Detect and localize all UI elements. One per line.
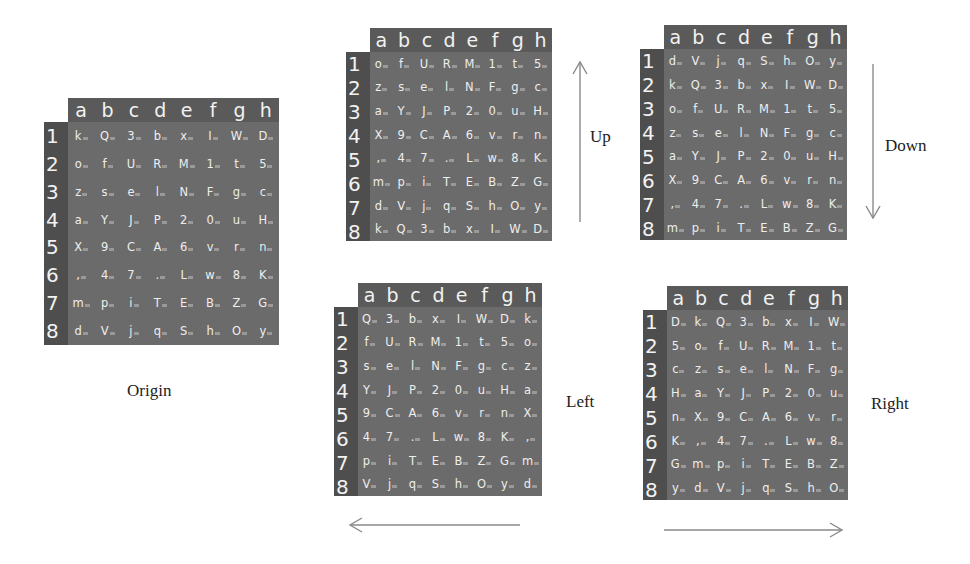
cell-char: 4 [101,268,108,282]
column-label: h [825,286,848,310]
column-header: abcdefgh [667,286,848,310]
cell-char: J [422,104,425,118]
grid-cell: y [529,194,552,218]
grid-cell: 1 [484,52,507,76]
cell-subscript-mark [814,205,819,208]
cell-subscript-mark [241,193,246,196]
cell-subscript-mark [769,229,774,232]
cell-char: h [807,481,814,495]
cell-subscript-mark [463,391,468,394]
grid-cell: A [404,402,427,426]
cell-subscript-mark [371,462,376,465]
cell-char: s [364,359,370,373]
cell-subscript-mark [522,230,527,233]
cell-char: z [75,185,81,199]
grid-cell: l [404,354,427,378]
cell-subscript-mark [681,465,686,468]
arrow-right-icon [662,520,844,540]
grid-cell: j [121,317,147,345]
cell-subscript-mark [216,276,221,279]
grid-cell: X [370,123,393,147]
cell-char: j [422,199,425,213]
cell-char: u [233,213,240,227]
cell-subscript-mark [136,165,141,168]
grid-cell: h [484,194,507,218]
cell-subscript-mark [395,414,400,417]
grid-cell: , [690,429,713,453]
grid-cell: G [667,453,690,477]
cell-subscript-mark [725,418,730,421]
cell-subscript-mark [488,320,493,323]
cell-char: g [478,359,485,373]
grid-cell: 7 [735,429,758,453]
cell-subscript-mark [497,112,502,115]
grid-cell: 1 [450,331,473,355]
row-label: 7 [640,193,664,217]
up-caption: Up [590,127,611,147]
cell-subscript-mark [679,229,684,232]
cell-subscript-mark [700,62,705,65]
cell-char: o [669,102,676,116]
grid-cell: c [253,178,279,206]
cell-subscript-mark [440,485,445,488]
cell-char: x [180,129,187,143]
cell-char: D [828,78,837,92]
cell-char: 0 [783,149,790,163]
column-label: c [416,28,439,52]
cell-subscript-mark [440,391,445,394]
cell-char: d [669,54,676,68]
cell-char: L [785,434,791,448]
cell-subscript-mark [769,442,774,445]
cell-char: H [828,149,837,163]
cell-subscript-mark [816,394,821,397]
column-label: f [778,25,801,49]
cell-subscript-mark [475,65,480,68]
cell-subscript-mark [721,62,726,65]
cell-char: i [717,221,720,235]
grid-cell: 5 [529,52,552,76]
column-label: a [664,25,687,49]
column-label: e [756,25,779,49]
cell-char: p [692,221,699,235]
cell-subscript-mark [768,205,773,208]
row-label: 2 [44,150,68,178]
cell-subscript-mark [188,276,193,279]
grid-cell: S [756,49,779,73]
grid-cell: a [519,378,542,402]
cell-char: x [466,222,473,236]
cell-subscript-mark [700,229,705,232]
cell-char: O [232,324,241,338]
cell-char: f [103,157,107,171]
grid-cell: C [121,234,147,262]
cell-char: h [488,199,495,213]
cell-char: d [375,199,382,213]
cell-subscript-mark [382,88,387,91]
cell-subscript-mark [817,442,822,445]
grid-cell: B [778,216,801,240]
grid-cell: d [519,472,542,496]
cell-subscript-mark [162,165,167,168]
cell-subscript-mark [417,462,422,465]
cell-char: P [409,383,416,397]
cell-char: l [739,126,742,140]
origin-caption: Origin [127,381,171,401]
cell-char: . [411,430,415,444]
grid-cell: U [735,334,758,358]
grid-cell: g [507,76,530,100]
grid-cell: G [529,170,552,194]
grid-cell: Q [94,122,120,150]
row-label: 7 [643,454,667,478]
grid-cell: Y [94,206,120,234]
cell-char: R [409,335,417,349]
cell-char: 8 [806,197,813,211]
row-label: 4 [346,124,370,148]
grid-cell: 7 [381,425,404,449]
cell-subscript-mark [815,229,820,232]
cell-char: 1 [783,102,790,116]
cell-subscript-mark [509,367,514,370]
cell-subscript-mark [791,110,796,113]
grid-cell: i [710,216,733,240]
cell-char: F [784,126,791,140]
cell-subscript-mark [542,88,547,91]
cell-char: u [830,386,837,400]
